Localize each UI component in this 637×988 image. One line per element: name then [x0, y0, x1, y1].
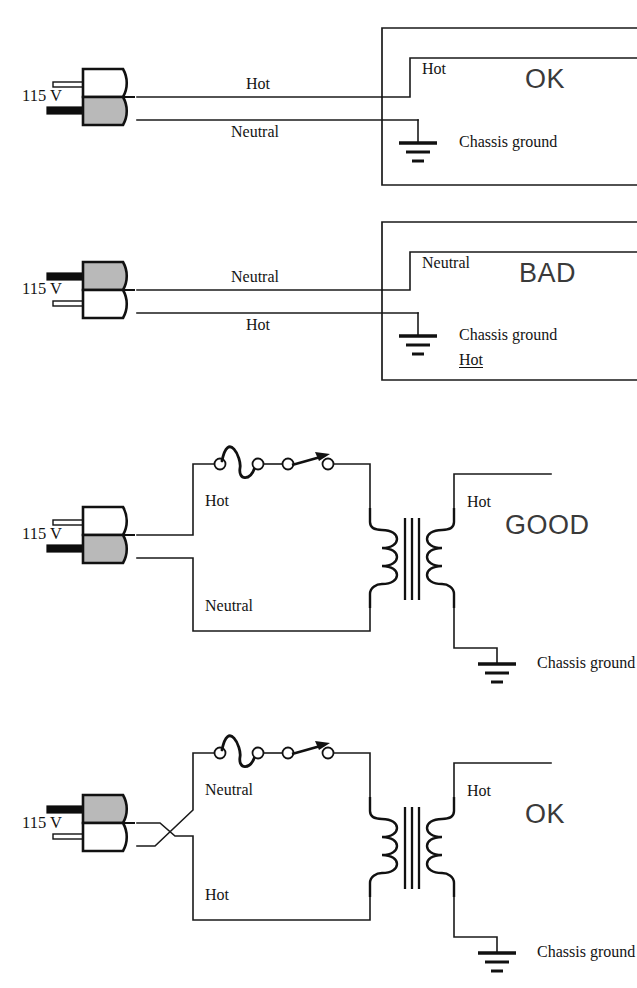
panel-2-group: [47, 222, 637, 380]
panel-1-ground-symbol: [399, 143, 437, 161]
panel-4-secondary-ground-wire: [454, 897, 497, 953]
panel-1-source-label: 115 V: [22, 88, 62, 105]
panel-4-source-label: 115 V: [22, 815, 62, 832]
panel-4-hot-wire: [137, 823, 370, 920]
panel-1-verdict: OK: [525, 66, 565, 93]
diagram-sheet: 115 V Hot Neutral Hot Chassis ground OK …: [0, 0, 637, 988]
panel-3-secondary-hot-label: Hot: [467, 494, 491, 510]
panel-3-switch-to-primary: [334, 464, 370, 508]
panel-2-chassis-ground-label: Chassis ground: [459, 327, 557, 343]
panel-4-verdict: OK: [525, 801, 565, 828]
panel-4-hot-label: Hot: [205, 887, 229, 903]
panel-3-transformer: [370, 508, 454, 608]
panel-1-hot-label: Hot: [246, 76, 270, 92]
panel-3-group: [47, 447, 551, 682]
panel-2-chassis-outline: [382, 222, 637, 380]
panel-1-chassis-ground-label: Chassis ground: [459, 134, 557, 150]
panel-2-verdict: BAD: [519, 260, 576, 287]
panel-1-chassis-hot-label: Hot: [422, 61, 446, 77]
panel-4-transformer: [370, 797, 454, 897]
panel-4-chassis-ground-label: Chassis ground: [537, 944, 635, 960]
panel-3-neutral-label: Neutral: [205, 598, 253, 614]
panel-2-neutral-label: Neutral: [231, 269, 279, 285]
panel-4-neutral-label: Neutral: [205, 782, 253, 798]
panel-2-hot-label: Hot: [246, 317, 270, 333]
panel-3-ground-symbol: [478, 664, 516, 682]
panel-3-secondary-ground-wire: [454, 608, 497, 664]
panel-4-secondary-hot-label: Hot: [467, 783, 491, 799]
panel-4-neutral-wire: [137, 753, 214, 846]
panel-2-source-label: 115 V: [22, 281, 62, 298]
panel-2-chassis-hot-warning: Hot: [459, 352, 483, 368]
panel-3-neutral-wire: [137, 558, 370, 631]
panel-3-hot-label: Hot: [205, 493, 229, 509]
panel-2-ground-symbol: [399, 336, 437, 354]
panel-4-fuse-switch: [215, 736, 334, 767]
panel-4-ground-symbol: [478, 953, 516, 971]
panel-1-chassis-hot-rail: [382, 58, 637, 97]
panel-1-neutral-label: Neutral: [231, 124, 279, 140]
panel-4-switch-to-primary: [334, 753, 370, 797]
panel-3-chassis-ground-label: Chassis ground: [537, 655, 635, 671]
panel-3-verdict: GOOD: [505, 512, 590, 539]
panel-4-group: [47, 736, 551, 971]
panel-2-chassis-neutral-rail: [382, 252, 637, 290]
panel-1-group: [47, 28, 637, 185]
panel-3-source-label: 115 V: [22, 526, 62, 543]
panel-2-chassis-neutral-label: Neutral: [422, 255, 470, 271]
panel-3-fuse-switch: [215, 447, 334, 478]
panel-3-hot-wire: [137, 464, 214, 535]
